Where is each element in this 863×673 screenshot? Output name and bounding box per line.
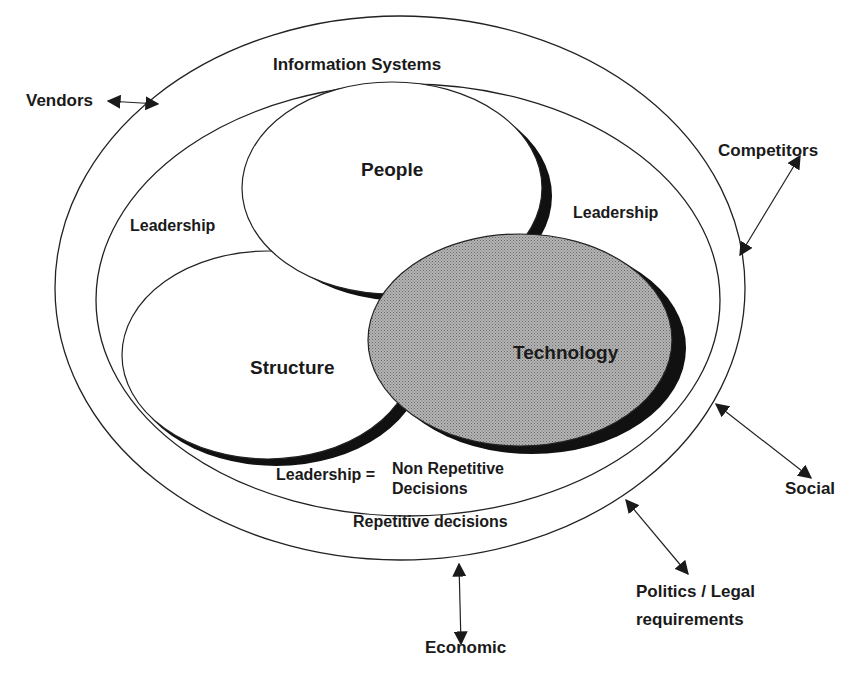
competitors-arrow — [740, 156, 800, 255]
competitors-label: Competitors — [718, 142, 818, 160]
economic-arrow — [459, 564, 461, 644]
vendors-label: Vendors — [26, 92, 93, 110]
title-information-systems: Information Systems — [273, 56, 441, 74]
vendors-arrow — [108, 101, 158, 104]
non-repetitive-decisions-label: Non Repetitive Decisions — [392, 459, 504, 499]
leadership-equals-label: Leadership = — [276, 467, 375, 484]
structure-label: Structure — [250, 358, 334, 378]
leadership-right-label: Leadership — [573, 205, 658, 222]
people-label: People — [361, 160, 423, 180]
information-systems-diagram — [0, 0, 863, 673]
social-arrow — [716, 404, 811, 478]
politics-legal-label: Politics / Legal requirements — [636, 578, 755, 634]
technology-ellipse — [368, 234, 672, 446]
repetitive-decisions-label: Repetitive decisions — [353, 514, 508, 531]
technology-label: Technology — [513, 343, 618, 363]
social-label: Social — [785, 480, 835, 498]
leadership-left-label: Leadership — [130, 218, 215, 235]
economic-label: Economic — [425, 639, 506, 657]
politics-arrow — [626, 500, 688, 574]
